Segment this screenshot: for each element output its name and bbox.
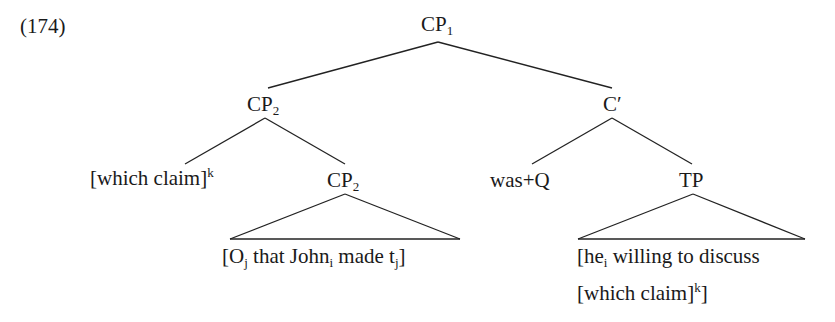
text-part: willing to discuss — [607, 244, 759, 268]
node-cp2-left: CP2 — [247, 92, 279, 116]
triangle-tp-left — [578, 194, 693, 239]
node-cp1: CP1 — [421, 12, 453, 36]
text-part: made t — [333, 244, 395, 268]
tp-content-line2: [which claim]k] — [577, 281, 708, 305]
triangle-lowercp-left — [230, 194, 345, 239]
text-part: [he — [577, 244, 604, 268]
lower-cp-content: [Oj that Johni made tj] — [222, 244, 406, 268]
tree-edges — [0, 0, 835, 322]
node-tp: TP — [679, 168, 704, 192]
text-part: ] — [701, 281, 708, 305]
text-part: [which claim] — [577, 281, 694, 305]
text-part: that John — [248, 244, 330, 268]
node-label: CP — [421, 12, 447, 36]
edge-cbar-tp — [612, 118, 692, 164]
node-subscript: 1 — [447, 23, 454, 38]
node-c-bar: C′ — [603, 92, 622, 116]
triangle-tp-right — [693, 194, 805, 239]
node-label: CP — [247, 92, 273, 116]
node-which-claim: [which claim]k — [90, 166, 214, 190]
tp-content-line1: [hei willing to discuss — [577, 244, 760, 268]
text-part: [O — [222, 244, 244, 268]
node-was-q: was+Q — [490, 168, 550, 192]
triangle-lowercp-right — [345, 194, 460, 239]
node-subscript: 2 — [273, 103, 280, 118]
edge-cp2-whichclaim — [185, 118, 265, 164]
node-superscript: k — [207, 165, 214, 180]
edge-cbar-wasq — [532, 118, 612, 164]
text-part: ] — [399, 244, 406, 268]
node-cp2-lower: CP2 — [327, 168, 359, 192]
node-label: CP — [327, 168, 353, 192]
edge-cp2-lowercp — [265, 118, 345, 164]
node-subscript: 2 — [353, 179, 360, 194]
node-text: [which claim] — [90, 166, 207, 190]
edge-cp1-cbar — [438, 42, 612, 88]
edge-cp1-cp2 — [268, 42, 438, 88]
example-number: (174) — [20, 14, 66, 38]
